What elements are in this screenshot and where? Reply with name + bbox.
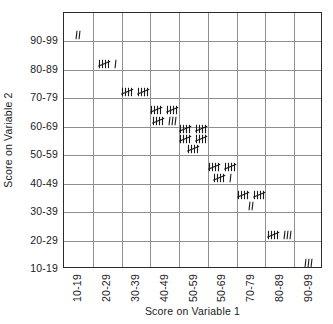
tally-group-five [98,59,111,69]
y-axis-tick-label: 40-49 [30,176,58,190]
tally-line [213,172,232,183]
tally-cell [294,241,323,269]
gridline-horizontal [64,241,321,242]
x-axis-tick-label-text: 50-69 [215,274,227,302]
x-axis-tick-label: 80-89 [272,270,286,304]
tally-line [98,58,117,69]
y-axis-tick-labels: 90-9980-8970-7960-6950-5940-4930-3920-29… [16,12,63,268]
tally-line [248,200,254,211]
y-axis-title: Score on Variable 2 [0,12,16,268]
x-axis-tick-label-text: 30-39 [129,274,141,302]
tally-line [179,134,208,144]
gridline-vertical [237,13,238,267]
gridline-vertical [150,13,151,267]
tally-group-singles [304,258,313,268]
tally-group-five [208,162,221,172]
tally-line [267,229,292,240]
tally-cell [150,98,179,126]
tally-line [152,115,177,126]
tally-cell [179,127,208,155]
y-axis-tick-label: 30-39 [30,204,58,218]
gridline-vertical [122,13,123,267]
tally-group-five [179,124,192,134]
x-axis-tick-label-text: 10-19 [71,274,83,302]
y-axis-title-text: Score on Variable 2 [2,92,14,187]
plot-area [63,12,322,268]
x-axis-tick-label-text: 50-59 [187,274,199,302]
x-axis-tick-label: 10-19 [70,270,84,304]
tally-cell [93,41,122,69]
y-axis-tick-label: 70-79 [30,90,58,104]
tally-line [304,257,313,268]
gridline-vertical [208,13,209,267]
tally-cell [237,184,266,212]
tally-group-five [121,87,134,97]
tally-group-five [195,134,208,144]
tally-group-five [237,190,250,200]
gridline-vertical [294,13,295,267]
x-axis-tick-label: 90-99 [301,270,315,304]
gridline-vertical [93,13,94,267]
x-axis-tick-label: 50-69 [214,270,228,304]
tally-group-five [267,230,280,240]
tally-group-singles [75,30,81,40]
x-axis-tick-label: 20-29 [99,270,113,304]
gridline-horizontal [64,98,321,99]
tally-group-five [213,173,226,183]
tally-group-five [253,190,266,200]
tally-line [187,144,200,154]
tally-line [179,124,208,134]
gridline-vertical [179,13,180,267]
tally-group-five [187,144,200,154]
x-axis-title: Score on Variable 1 [63,305,322,317]
tally-group-singles [248,201,254,211]
x-axis-tick-label: 30-39 [128,270,142,304]
y-axis-tick-label: 50-59 [30,147,58,161]
tally-group-singles [229,173,232,183]
tally-group-singles [168,116,177,126]
tally-line [208,161,237,172]
gridline-horizontal [64,212,321,213]
tally-group-singles [283,230,292,240]
y-axis-tick-label: 60-69 [30,119,58,133]
x-axis-tick-label-text: 40-49 [158,274,170,302]
tally-group-singles [114,59,117,69]
tally-group-five [195,124,208,134]
tally-group-five [137,87,150,97]
tally-cell [208,155,237,183]
y-axis-tick-label: 20-29 [30,233,58,247]
y-axis-tick-label: 90-99 [30,33,58,47]
tally-line [121,86,150,97]
x-axis-tick-label-text: 80-89 [273,274,285,302]
tally-group-five [152,116,165,126]
x-axis-tick-label: 70-79 [243,270,257,304]
gridline-horizontal [64,41,321,42]
tally-line [150,104,179,115]
y-axis-tick-label: 10-19 [30,261,58,275]
x-axis-tick-label: 40-49 [157,270,171,304]
gridline-vertical [265,13,266,267]
gridline-horizontal [64,155,321,156]
gridline-horizontal [64,70,321,71]
tally-group-five [166,105,179,115]
y-axis-tick-label: 80-89 [30,62,58,76]
x-axis-tick-label-text: 70-79 [244,274,256,302]
gridline-horizontal [64,184,321,185]
tally-cell [265,212,294,240]
tally-cell [122,70,151,98]
x-axis-tick-label: 50-59 [186,270,200,304]
gridline-horizontal [64,127,321,128]
x-axis-tick-labels: 10-1920-2930-3940-4950-5950-6970-7980-89… [63,270,322,304]
tally-line [75,29,81,40]
tally-group-five [179,134,192,144]
x-axis-tick-label-text: 20-29 [100,274,112,302]
tally-line [237,189,266,200]
tally-cell [64,13,93,41]
tally-group-five [150,105,163,115]
x-axis-tick-label-text: 90-99 [302,274,314,302]
tally-group-five [224,162,237,172]
